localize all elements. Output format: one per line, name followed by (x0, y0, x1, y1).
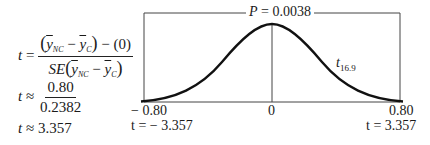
curve-label: t16.9 (336, 55, 356, 73)
left-t-value: t = − 3.357 (131, 118, 193, 134)
right-t-value: t = 3.357 (366, 118, 416, 134)
p-value-label: PP = 0.0038 = 0.0038 (246, 4, 314, 20)
left-tick-label: − 0.80 (131, 103, 167, 119)
right-tick-label: 0.80 (389, 103, 414, 119)
center-tick-label: 0 (268, 103, 275, 119)
